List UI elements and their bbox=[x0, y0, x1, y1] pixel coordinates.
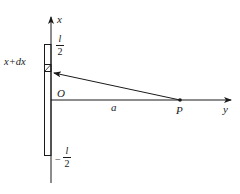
x-axis-label: x bbox=[57, 14, 62, 25]
element-hatch bbox=[45, 65, 51, 71]
bottom-label-numerator: l bbox=[65, 146, 70, 156]
field-vector-arrow bbox=[54, 73, 180, 100]
distance-a-label: a bbox=[111, 102, 117, 113]
top-label-numerator: l bbox=[58, 34, 63, 44]
point-p-dot bbox=[178, 98, 182, 102]
charged-rod bbox=[45, 45, 52, 156]
origin-label: O bbox=[57, 88, 65, 99]
top-label-denominator: 2 bbox=[58, 47, 63, 57]
top-half-length-label: l 2 bbox=[56, 34, 64, 57]
y-axis-label: y bbox=[223, 104, 228, 115]
diagram-svg bbox=[0, 0, 240, 194]
element-position-label: x+dx bbox=[4, 57, 26, 68]
point-p-label: P bbox=[176, 105, 183, 116]
bottom-label-denominator: 2 bbox=[65, 159, 70, 169]
diagram-canvas: x l 2 x+dx O a P y − l 2 bbox=[0, 0, 240, 194]
bottom-label-sign: − bbox=[55, 155, 61, 165]
bottom-half-length-label: l 2 bbox=[63, 146, 71, 169]
